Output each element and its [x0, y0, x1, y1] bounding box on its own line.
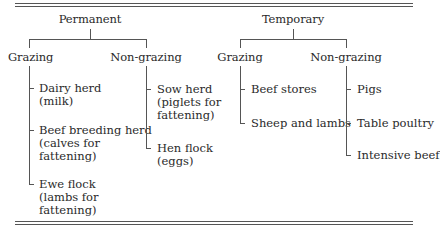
- temporary-nongrazing-drop: [346, 39, 347, 48]
- tick-sheep: [240, 123, 245, 124]
- permanent-branch-bar: [29, 39, 147, 40]
- temporary-nongrazing-trunk: [346, 66, 347, 156]
- bottom-double-rule: [15, 221, 413, 225]
- top-double-rule: [15, 3, 413, 7]
- tick-beef-stores: [240, 89, 245, 90]
- permanent-grazing-trunk: [29, 66, 30, 184]
- tick-intensive-beef: [346, 155, 351, 156]
- tick-hen: [146, 148, 151, 149]
- permanent-stem: [90, 29, 91, 39]
- temporary-heading: Temporary: [262, 13, 324, 26]
- tick-beef-breeding: [29, 130, 34, 131]
- permanent-grazing-drop: [29, 39, 30, 48]
- leaf-dairy-herd: Dairy herd (milk): [39, 82, 101, 108]
- temporary-grazing-drop: [240, 39, 241, 48]
- temporary-grazing-label: Grazing: [217, 51, 262, 64]
- permanent-heading: Permanent: [59, 13, 122, 26]
- tick-ewe: [29, 184, 34, 185]
- temporary-nongrazing-label: Non-grazing: [310, 51, 381, 64]
- leaf-hen-flock: Hen flock (eggs): [157, 142, 213, 168]
- leaf-beef-breeding-herd: Beef breeding herd (calves for fattening…: [39, 124, 152, 163]
- leaf-ewe-flock: Ewe flock (lambs for fattening): [39, 178, 99, 217]
- tick-dairy: [29, 88, 34, 89]
- temporary-stem: [293, 29, 294, 39]
- leaf-table-poultry: Table poultry: [357, 117, 434, 130]
- leaf-pigs: Pigs: [357, 83, 382, 96]
- permanent-nongrazing-label: Non-grazing: [110, 51, 181, 64]
- leaf-sow-herd: Sow herd (piglets for fattening): [157, 83, 221, 122]
- permanent-grazing-label: Grazing: [8, 51, 53, 64]
- tick-sow: [146, 89, 151, 90]
- tick-table-poultry: [346, 123, 351, 124]
- temporary-branch-bar: [240, 39, 347, 40]
- leaf-sheep-and-lambs: Sheep and lambs: [251, 117, 351, 130]
- temporary-grazing-trunk: [240, 66, 241, 124]
- permanent-nongrazing-drop: [146, 39, 147, 48]
- leaf-beef-stores: Beef stores: [251, 83, 317, 96]
- permanent-nongrazing-trunk: [146, 66, 147, 149]
- leaf-intensive-beef: Intensive beef: [357, 149, 440, 162]
- tick-pigs: [346, 89, 351, 90]
